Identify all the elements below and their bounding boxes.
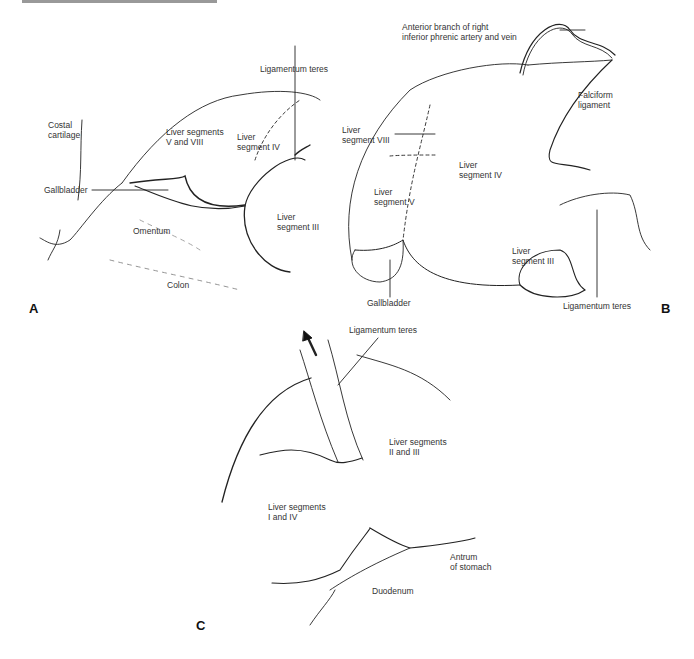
label-c-ligamentum-teres: Ligamentum teres [349, 325, 417, 335]
panel-a-drawing [40, 46, 320, 290]
label-a-liver-iii: Liver segment III [277, 212, 319, 232]
label-a-liver-v-viii: Liver segments V and VIII [166, 127, 224, 147]
label-a-omentum: Omentum [133, 226, 170, 236]
label-b-liver-iii: Liver segment III [512, 246, 554, 266]
label-c-liver-i-iv: Liver segments I and IV [268, 502, 326, 522]
panel-c-drawing [222, 338, 475, 625]
panel-letter-c: C [196, 618, 205, 633]
label-c-duodenum: Duodenum [372, 586, 414, 596]
label-b-liver-iv: Liver segment IV [459, 160, 502, 180]
label-c-antrum: Antrum of stomach [450, 552, 492, 572]
label-b-ligamentum-teres: Ligamentum teres [563, 301, 631, 311]
label-b-falciform: Falciform ligament [578, 90, 613, 110]
label-a-liver-iv: Liver segment IV [237, 132, 280, 152]
label-b-liver-v: Liver segment V [374, 187, 415, 207]
label-c-liver-ii-iii: Liver segments II and III [389, 437, 447, 457]
label-b-gallbladder: Gallbladder [367, 298, 410, 308]
panel-letter-a: A [29, 301, 38, 316]
label-b-liver-viii: Liver segment VIII [342, 125, 390, 145]
panel-letter-b: B [661, 301, 670, 316]
label-a-gallbladder: Gallbladder [44, 185, 87, 195]
label-a-ligamentum-teres: Ligamentum teres [260, 64, 328, 74]
label-b-phrenic: Anterior branch of right inferior phreni… [402, 22, 517, 42]
retraction-arrow-icon [303, 331, 316, 355]
label-a-colon: Colon [167, 280, 189, 290]
label-a-costal-cartilage: Costal cartilage [48, 120, 80, 140]
